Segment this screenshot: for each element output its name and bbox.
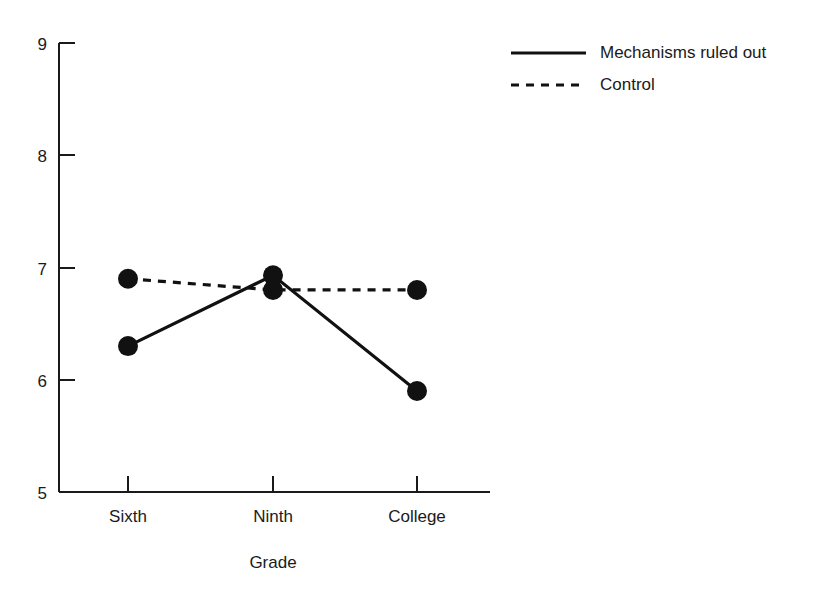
y-tick-label-6: 6 — [38, 372, 47, 391]
x-category-label-ninth: Ninth — [253, 507, 293, 526]
chart-legend: Mechanisms ruled out Control — [511, 43, 767, 94]
data-point — [118, 336, 138, 356]
y-tick-label-5: 5 — [38, 484, 47, 503]
chart-figure: 9 8 7 6 5 Sixth Ninth College Grade Mech… — [0, 0, 816, 607]
x-category-label-college: College — [388, 507, 446, 526]
legend-label-mechanisms-ruled-out: Mechanisms ruled out — [600, 43, 767, 62]
line-chart: 9 8 7 6 5 Sixth Ninth College Grade Mech… — [0, 0, 816, 607]
y-tick-label-8: 8 — [38, 147, 47, 166]
data-point — [407, 280, 427, 300]
data-point — [263, 265, 283, 285]
y-tick-label-7: 7 — [38, 260, 47, 279]
legend-label-control: Control — [600, 75, 655, 94]
data-point — [118, 269, 138, 289]
x-category-label-sixth: Sixth — [109, 507, 147, 526]
data-point — [407, 381, 427, 401]
x-axis-title: Grade — [249, 553, 296, 572]
y-tick-label-9: 9 — [38, 35, 47, 54]
